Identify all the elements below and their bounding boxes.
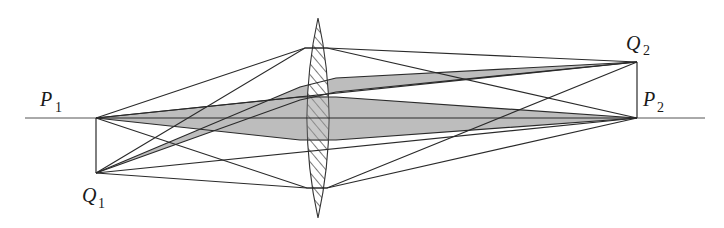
svg-text:2: 2 xyxy=(657,100,664,115)
label-p1: P 1 xyxy=(39,88,62,115)
svg-text:P: P xyxy=(642,88,655,110)
svg-text:Q: Q xyxy=(626,32,641,54)
label-q1: Q 1 xyxy=(82,184,105,211)
svg-text:P: P xyxy=(39,88,52,110)
lens-diagram: P 1 Q 1 Q 2 P 2 xyxy=(0,0,724,228)
label-q2: Q 2 xyxy=(626,32,650,58)
label-p2: P 2 xyxy=(642,88,664,115)
svg-text:Q: Q xyxy=(82,184,97,206)
svg-text:1: 1 xyxy=(55,100,62,115)
svg-text:1: 1 xyxy=(98,196,105,211)
svg-text:2: 2 xyxy=(643,43,650,58)
